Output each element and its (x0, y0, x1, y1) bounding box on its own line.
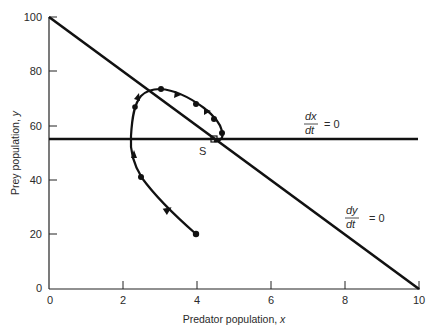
y-tick-60: 60 (30, 120, 42, 132)
x-tick-10: 10 (413, 294, 425, 306)
svg-text:dt: dt (346, 218, 356, 230)
steady-state-label: S (199, 145, 206, 157)
svg-text:dt: dt (305, 124, 315, 136)
svg-text:= 0: = 0 (369, 212, 385, 224)
y-tick-100: 100 (24, 11, 42, 23)
dy-dt-label: dy dt = 0 (345, 204, 385, 230)
arrow-icon (134, 93, 140, 101)
y-axis-title: Prey population, y (9, 110, 21, 195)
y-tick-40: 40 (30, 174, 42, 186)
x-axis-title: Predator population, x (183, 313, 286, 325)
x-tick-8: 8 (342, 294, 348, 306)
svg-text:dx: dx (305, 110, 317, 122)
dy-dt-zero-isocline (49, 17, 419, 289)
dx-dt-label: dx dt = 0 (304, 110, 340, 136)
x-tick-4: 4 (194, 294, 200, 306)
x-tick-6: 6 (268, 294, 274, 306)
svg-text:= 0: = 0 (324, 118, 340, 130)
y-tick-80: 80 (30, 65, 42, 77)
trajectory-markers (132, 86, 225, 237)
phase-plane-chart: 100 80 60 40 20 0 0 2 4 6 8 10 Predator … (0, 0, 436, 335)
y-tick-labels: 100 80 60 40 20 0 (24, 11, 42, 294)
y-tick-20: 20 (30, 228, 42, 240)
x-tick-2: 2 (120, 294, 126, 306)
y-tick-0: 0 (36, 282, 42, 294)
svg-text:dy: dy (346, 204, 359, 216)
x-tick-labels: 0 2 4 6 8 10 (47, 294, 425, 306)
x-tick-0: 0 (47, 294, 53, 306)
